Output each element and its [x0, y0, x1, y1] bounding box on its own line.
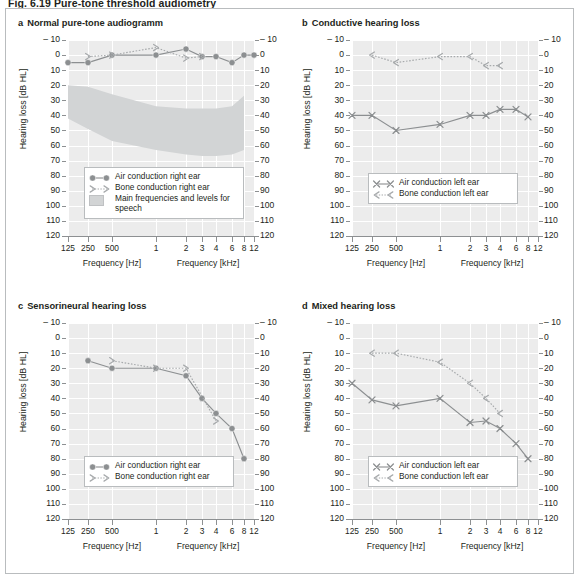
y-axis-tick-mark-right	[255, 146, 259, 147]
y-axis-tick-mark-right	[255, 413, 259, 414]
y-axis-tick-label-left: 110	[24, 499, 60, 508]
x-axis-tick-mark	[156, 237, 157, 242]
x-axis-line	[348, 236, 542, 237]
legend-marker-bracket-left	[373, 189, 395, 200]
panel-letter-c: c	[18, 301, 23, 311]
y-axis-tick-mark-right	[255, 100, 259, 101]
y-axis-tick-label-left: 40	[308, 394, 344, 403]
y-axis-tick-mark-right	[539, 221, 543, 222]
y-axis-tick-mark-right	[539, 55, 543, 56]
y-axis-tick-mark-right	[255, 353, 259, 354]
y-axis-tick-label-left: 0	[24, 333, 60, 342]
data-point-marker	[86, 53, 91, 59]
legend-key	[89, 194, 111, 204]
x-axis-tick-label: 1	[426, 244, 454, 252]
legend-key	[89, 472, 111, 482]
legend-label: Air conduction right ear	[115, 172, 200, 182]
data-point-marker	[183, 373, 189, 379]
y-axis-tick-mark	[346, 338, 350, 339]
x-axis-tick-mark	[202, 520, 203, 525]
panel-title-a: aNormal pure-tone audiogramm	[18, 18, 163, 28]
y-axis-tick-label-left: 80	[24, 171, 60, 180]
y-axis-tick-label-left: 60	[308, 424, 344, 433]
y-axis-tick-label-right: 10	[260, 66, 296, 75]
x-axis-tick-mark	[112, 237, 113, 242]
y-axis-tick-label-right: 100	[544, 201, 579, 210]
data-point-marker	[229, 60, 235, 66]
legend-key	[89, 172, 111, 182]
y-axis-tick-label-right: 40	[260, 111, 296, 120]
series-line-cross	[352, 109, 528, 130]
y-axis-tick-mark-right	[539, 191, 543, 192]
y-axis-tick-mark	[346, 221, 350, 222]
data-point-marker	[241, 456, 247, 462]
y-axis-tick-mark-right	[255, 383, 259, 384]
panel-letter-b: b	[302, 18, 308, 28]
y-axis-tick-mark	[62, 429, 66, 430]
panel-d: dMixed hearing loss– 10– 100010102020303…	[296, 301, 579, 579]
y-axis-tick-mark-right	[539, 100, 543, 101]
y-axis-tick-label-left: – 10	[24, 318, 60, 327]
y-axis-tick-mark	[62, 459, 66, 460]
y-axis-tick-label-right: 110	[544, 499, 579, 508]
data-layer-c	[68, 323, 254, 519]
y-axis-tick-label-left: 40	[24, 394, 60, 403]
x-axis-title-khz: Frequency [kHz]	[440, 541, 544, 551]
y-axis-tick-label-left: 100	[24, 201, 60, 210]
y-axis-tick-label-right: 20	[260, 364, 296, 373]
y-axis-tick-label-left: 50	[24, 126, 60, 135]
y-axis-tick-mark	[62, 115, 66, 116]
y-axis-tick-label-right: – 10	[260, 318, 296, 327]
y-axis-tick-mark	[346, 459, 350, 460]
y-axis-tick-label-left: – 10	[308, 318, 344, 327]
x-axis-tick-mark	[186, 237, 187, 242]
x-axis-tick-label: 12	[524, 244, 552, 252]
x-axis-tick-label: 500	[382, 244, 410, 252]
x-axis-tick-mark	[516, 237, 517, 242]
y-axis-tick-label-right: – 10	[544, 35, 579, 44]
legend-swatch-speech-band	[89, 195, 104, 206]
x-axis-tick-mark	[254, 237, 255, 242]
x-axis-tick-mark	[516, 520, 517, 525]
x-axis-tick-mark	[202, 237, 203, 242]
y-axis-tick-label-right: 70	[260, 439, 296, 448]
y-axis-tick-label-left: 30	[308, 379, 344, 388]
y-axis-tick-label-right: 60	[544, 424, 579, 433]
y-axis-tick-mark	[346, 70, 350, 71]
y-axis-tick-label-left: 20	[24, 81, 60, 90]
y-axis-tick-label-left: 10	[308, 349, 344, 358]
y-axis-tick-label-left: 120	[308, 231, 344, 240]
y-axis-tick-mark-right	[539, 85, 543, 86]
x-axis-tick-mark	[232, 520, 233, 525]
x-axis-title-khz: Frequency [kHz]	[156, 258, 260, 268]
y-axis-tick-label-right: 10	[544, 66, 579, 75]
y-axis-tick-label-right: 70	[260, 156, 296, 165]
panel-title-text: Conductive hearing loss	[312, 18, 420, 28]
y-axis-tick-mark-right	[255, 474, 259, 475]
y-axis-tick-mark	[346, 161, 350, 162]
x-axis-tick-mark	[186, 520, 187, 525]
y-axis-tick-mark	[346, 489, 350, 490]
y-axis-title: Hearing loss [dB HL]	[18, 317, 28, 467]
y-axis-tick-label-left: 90	[308, 469, 344, 478]
legend-label: Bone conduction left ear	[399, 472, 488, 482]
y-axis-tick-label-right: 30	[260, 379, 296, 388]
y-axis-tick-label-right: 20	[260, 81, 296, 90]
y-axis-tick-label-right: 50	[544, 409, 579, 418]
x-axis-tick-mark	[244, 237, 245, 242]
y-axis-tick-label-right: 0	[260, 333, 296, 342]
x-axis-tick-mark	[254, 520, 255, 525]
y-axis-tick-label-left: 0	[308, 333, 344, 342]
panel-b: bConductive hearing loss– 10– 1000101020…	[296, 18, 579, 301]
y-axis-title: Hearing loss [dB HL]	[302, 34, 312, 184]
y-axis-tick-mark	[62, 323, 66, 324]
x-axis-tick-mark	[156, 520, 157, 525]
y-axis-tick-label-right: – 10	[260, 35, 296, 44]
legend-label: Air conduction left ear	[399, 461, 479, 471]
y-axis-tick-mark-right	[255, 176, 259, 177]
x-axis-tick-mark	[216, 520, 217, 525]
y-axis-tick-label-left: 50	[308, 409, 344, 418]
y-axis-tick-mark-right	[539, 115, 543, 116]
legend-marker-bracket-left	[373, 472, 395, 483]
data-layer-d	[352, 323, 538, 519]
